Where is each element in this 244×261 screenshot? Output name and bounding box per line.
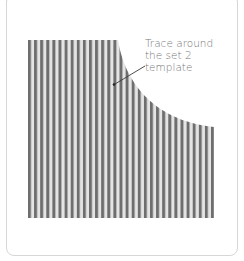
annotation-line-1: Trace around [145,37,225,49]
annotation-line-3: template [145,61,225,73]
annotation-label: Trace around the set 2 template [145,37,225,73]
annotation-line-2: the set 2 [145,49,225,61]
